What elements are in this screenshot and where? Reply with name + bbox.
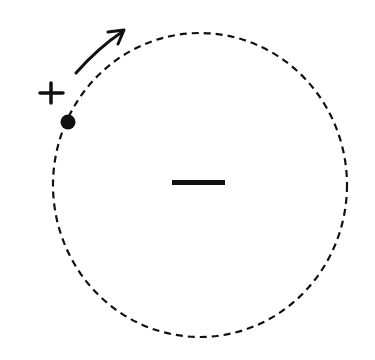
plus-sign-icon — [40, 83, 63, 103]
motion-arrow-icon — [76, 30, 124, 73]
orbit-diagram — [0, 0, 375, 360]
positive-particle — [61, 115, 76, 130]
negative-charge-icon — [172, 180, 225, 185]
